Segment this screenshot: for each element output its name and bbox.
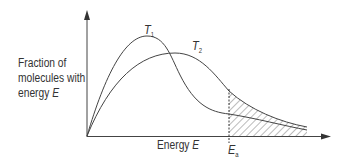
t2-label: T2: [192, 38, 202, 54]
y-axis-arrow-icon: [84, 10, 90, 20]
t1-label: T1: [144, 22, 154, 38]
y-axis-label: Fraction of molecules with energy E: [18, 56, 85, 101]
x-axis-label: Energy E: [157, 138, 199, 153]
x-axis-arrow-icon: [321, 134, 331, 140]
hatched-region: [87, 53, 307, 136]
ea-label: Ea: [228, 142, 239, 158]
